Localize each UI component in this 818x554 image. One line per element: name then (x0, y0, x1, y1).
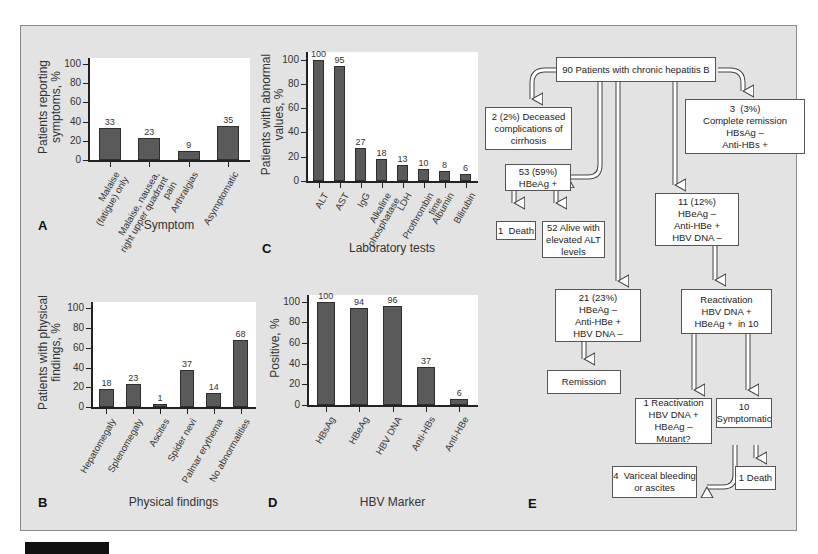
y-tick-label: 0 (60, 401, 84, 412)
y-tick (302, 364, 307, 365)
y-tick (86, 368, 91, 369)
x-tick (214, 409, 215, 414)
y-tick (86, 328, 91, 329)
bar-value-label: 37 (411, 356, 441, 366)
flow-node-alive-52: 52 Alive with elevated ALT levels (542, 221, 605, 258)
x-tick (189, 162, 190, 167)
bar-value-label: 95 (325, 55, 355, 65)
bar (450, 399, 468, 405)
y-tick (83, 141, 88, 142)
bar-value-label: 37 (172, 359, 202, 369)
y-tick (302, 384, 307, 385)
panel-letter: C (262, 241, 271, 256)
bar (383, 306, 401, 405)
panel-letter-e: E (528, 496, 537, 511)
x-tick (133, 409, 134, 414)
y-tick (83, 83, 88, 84)
flow-node-hbeag-positive: 53 (59%) HBeAg + (505, 164, 571, 191)
bar (355, 148, 367, 181)
flow-node-group-21: 21 (23%) HBeAg – Anti-HBe + HBV DNA – (555, 289, 641, 342)
x-tick (106, 409, 107, 414)
flow-node-deceased: 2 (2%) Deceased complications of cirrhos… (485, 107, 572, 150)
bar (460, 174, 472, 181)
bar-value-label: 100 (311, 291, 341, 301)
bar (376, 159, 388, 181)
y-tick-label: 60 (60, 342, 84, 353)
y-tick-label: 20 (60, 381, 84, 392)
x-tick (459, 407, 460, 412)
x-tick (241, 409, 242, 414)
flow-node-death-2: 1 Death (735, 466, 776, 490)
bar (334, 66, 346, 181)
bar-value-label: 1 (145, 393, 175, 403)
bar (397, 165, 409, 181)
x-axis-title: HBV Marker (307, 495, 478, 509)
y-tick (302, 343, 307, 344)
y-axis-title: Patients with abnormal values, % (260, 44, 286, 185)
bar-value-label: 23 (118, 373, 148, 383)
flow-node-remission: Remission (547, 370, 621, 394)
panel-letter: A (38, 218, 47, 233)
bar-value-label: 6 (451, 163, 481, 173)
bar (417, 367, 435, 405)
bar (418, 169, 430, 181)
bar-value-label: 35 (213, 115, 243, 125)
y-tick (86, 348, 91, 349)
bar (180, 370, 195, 407)
y-tick (83, 102, 88, 103)
y-tick (301, 108, 306, 109)
y-tick-label: 100 (60, 302, 84, 313)
y-tick-label: 80 (60, 322, 84, 333)
panel-letter: D (268, 495, 277, 510)
bar-value-label: 96 (378, 295, 408, 305)
flow-node-complete-remission: 3 (3%) Complete remission HBsAg – Anti-H… (685, 99, 805, 154)
x-axis-title: Symptom (88, 218, 250, 232)
bar (439, 171, 451, 181)
flow-node-root: 90 Patients with chronic hepatitis B (556, 57, 716, 82)
x-tick (426, 407, 427, 412)
panel-letter: B (38, 495, 47, 510)
bar-value-label: 6 (444, 388, 474, 398)
x-tick (466, 183, 467, 188)
bar-value-label: 18 (91, 378, 121, 388)
bar (99, 389, 114, 407)
y-tick (302, 405, 307, 406)
bar-value-label: 23 (134, 127, 164, 137)
y-axis-title: Patients reporting symptoms, % (37, 50, 63, 164)
x-axis-title: Laboratory tests (306, 241, 478, 255)
bar (206, 393, 221, 407)
x-tick (403, 183, 404, 188)
bar (138, 138, 160, 160)
bar-value-label: 68 (226, 329, 256, 339)
x-tick (326, 407, 327, 412)
bar (317, 302, 335, 405)
x-tick (340, 183, 341, 188)
bar (99, 128, 121, 160)
y-tick (301, 132, 306, 133)
plot-area (88, 58, 250, 162)
x-tick (382, 183, 383, 188)
x-tick (160, 409, 161, 414)
flow-node-reactivation-1: 1 Reactivation HBV DNA + HBeAg – Mutant? (635, 398, 712, 444)
x-tick (228, 162, 229, 167)
bar (313, 60, 325, 181)
y-tick (86, 407, 91, 408)
bar-value-label: 27 (346, 137, 376, 147)
y-tick (302, 302, 307, 303)
bar-value-label: 9 (174, 140, 204, 150)
y-tick (301, 60, 306, 61)
bar-value-label: 33 (95, 117, 125, 127)
bar-value-label: 94 (344, 297, 374, 307)
y-tick (301, 157, 306, 158)
bar (350, 308, 368, 405)
y-tick (86, 387, 91, 388)
x-tick (149, 162, 150, 167)
y-tick (86, 308, 91, 309)
bar (178, 151, 200, 160)
bar (233, 340, 248, 407)
y-axis-title: Positive, % (269, 287, 282, 409)
bar (126, 384, 141, 407)
x-tick (393, 407, 394, 412)
bar (153, 404, 168, 407)
y-tick (83, 122, 88, 123)
